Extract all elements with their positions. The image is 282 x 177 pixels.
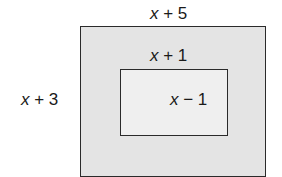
outer-height-label: x + 3 [21, 91, 58, 108]
inner-width-label: x + 1 [150, 47, 187, 64]
outer-width-label: x + 5 [150, 5, 187, 22]
inner-height-label: x − 1 [170, 91, 207, 108]
